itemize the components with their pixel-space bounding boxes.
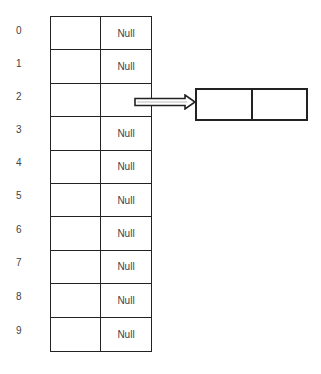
key-cell	[51, 17, 101, 49]
pointer-cell: Null	[101, 17, 151, 49]
key-cell	[51, 251, 101, 283]
index-label: 8	[16, 291, 36, 302]
pointer-arrow-icon	[133, 94, 197, 110]
bucket-row: Null	[51, 284, 151, 317]
index-label: 5	[16, 190, 36, 201]
index-label: 2	[16, 91, 36, 102]
bucket-row: Null	[51, 217, 151, 250]
bucket-row: Null	[51, 151, 151, 184]
key-cell	[51, 151, 101, 183]
pointer-cell: Null	[101, 151, 151, 183]
key-cell	[51, 84, 101, 116]
linked-list-node	[195, 88, 308, 121]
pointer-cell: Null	[101, 117, 151, 149]
key-cell	[51, 217, 101, 249]
pointer-cell: Null	[101, 318, 151, 351]
index-label: 9	[16, 325, 36, 336]
key-cell	[51, 318, 101, 351]
bucket-row: Null	[51, 117, 151, 150]
bucket-array: Null Null Null Null Null Null Null Null …	[50, 16, 152, 352]
pointer-cell: Null	[101, 284, 151, 316]
key-cell	[51, 50, 101, 82]
key-cell	[51, 117, 101, 149]
bucket-row: Null	[51, 184, 151, 217]
bucket-row: Null	[51, 17, 151, 50]
index-label: 6	[16, 224, 36, 235]
key-cell	[51, 184, 101, 216]
index-label: 4	[16, 157, 36, 168]
bucket-row: Null	[51, 251, 151, 284]
index-label: 3	[16, 124, 36, 135]
pointer-cell: Null	[101, 50, 151, 82]
node-data-field	[197, 90, 253, 119]
index-label: 0	[16, 25, 36, 36]
pointer-cell: Null	[101, 251, 151, 283]
key-cell	[51, 284, 101, 316]
bucket-row: Null	[51, 50, 151, 83]
index-label: 7	[16, 257, 36, 268]
bucket-row: Null	[51, 318, 151, 351]
pointer-cell: Null	[101, 184, 151, 216]
node-next-field	[253, 90, 307, 119]
index-label: 1	[16, 58, 36, 69]
pointer-cell: Null	[101, 217, 151, 249]
